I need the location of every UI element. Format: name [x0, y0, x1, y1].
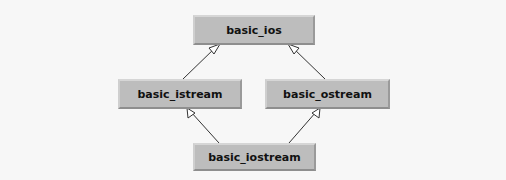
node-basic-ios: basic_ios: [193, 15, 315, 45]
node-basic-istream: basic_istream: [118, 79, 242, 109]
node-label: basic_ostream: [283, 88, 372, 101]
node-basic-iostream: basic_iostream: [193, 143, 316, 171]
node-basic-ostream: basic_ostream: [265, 79, 390, 109]
node-label: basic_istream: [138, 88, 223, 101]
node-label: basic_iostream: [208, 151, 301, 164]
node-label: basic_ios: [226, 24, 282, 37]
